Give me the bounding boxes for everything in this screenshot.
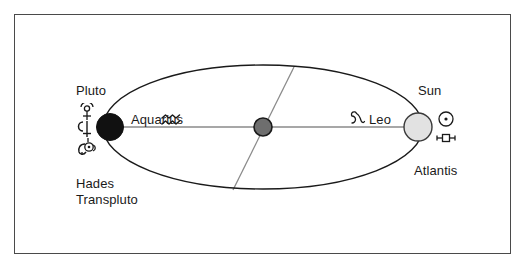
label-sun: Sun bbox=[418, 83, 441, 98]
sun-glyph bbox=[437, 110, 455, 128]
hades-glyph bbox=[77, 120, 97, 138]
transpluto-glyph bbox=[75, 137, 99, 157]
sun-body bbox=[404, 113, 432, 141]
ellipse-center-point bbox=[254, 118, 272, 136]
pluto-glyph bbox=[77, 103, 97, 121]
label-transpluto: Transpluto bbox=[76, 192, 138, 207]
pluto-body bbox=[97, 114, 124, 141]
leo-glyph bbox=[349, 110, 367, 126]
atlantis-glyph bbox=[436, 131, 456, 145]
label-leo: Leo bbox=[369, 112, 391, 127]
label-hades: Hades bbox=[76, 176, 114, 191]
diagram-canvas: Pluto Hades Transpluto Aquarius Leo Sun … bbox=[0, 0, 527, 274]
label-aquarius: Aquarius bbox=[131, 112, 183, 127]
label-pluto: Pluto bbox=[76, 83, 106, 98]
label-atlantis: Atlantis bbox=[414, 163, 457, 178]
